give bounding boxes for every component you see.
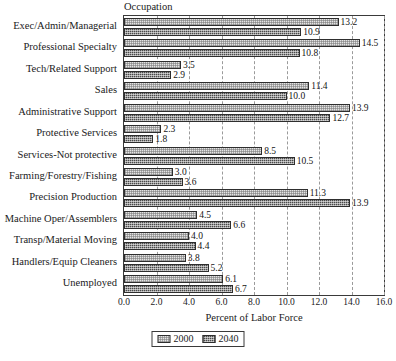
bar-value-label: 1.8 bbox=[155, 135, 167, 145]
category-label: Professional Specialty bbox=[0, 41, 117, 52]
bar-2040 bbox=[124, 71, 171, 79]
bar-group: 6.16.7 bbox=[124, 275, 384, 293]
bar-value-label: 13.2 bbox=[341, 18, 358, 28]
x-tick-label: 16.0 bbox=[376, 297, 393, 307]
bar-2000 bbox=[124, 82, 309, 90]
x-tick-label: 8.0 bbox=[248, 297, 260, 307]
bar-group: 3.52.9 bbox=[124, 61, 384, 79]
bar-2040 bbox=[124, 49, 300, 57]
category-label: Services-Not protective bbox=[0, 149, 117, 160]
bar-value-label: 3.5 bbox=[183, 61, 195, 71]
x-tick-label: 12.0 bbox=[311, 297, 328, 307]
bar-2040 bbox=[124, 92, 287, 100]
bar-2040 bbox=[124, 157, 295, 165]
bar-2040 bbox=[124, 221, 231, 229]
bar-2000 bbox=[124, 18, 339, 26]
bar-value-label: 4.4 bbox=[198, 242, 210, 252]
bar-2040 bbox=[124, 135, 153, 143]
chart-figure: Occupation Exec/Admin/ManagerialProfessi… bbox=[0, 0, 396, 361]
bar-2040 bbox=[124, 242, 196, 250]
bar-value-label: 14.5 bbox=[362, 39, 379, 49]
plot-title: Occupation bbox=[124, 1, 172, 13]
plot-inner: 13.210.914.510.83.52.911.410.013.912.72.… bbox=[124, 16, 384, 295]
bar-value-label: 4.5 bbox=[199, 211, 211, 221]
legend-item-2040: 2040 bbox=[203, 334, 239, 344]
bar-2000 bbox=[124, 211, 197, 219]
category-label: Unemployed bbox=[0, 277, 117, 288]
bar-2000 bbox=[124, 61, 181, 69]
bar-group: 13.912.7 bbox=[124, 104, 384, 122]
bar-group: 3.85.2 bbox=[124, 254, 384, 272]
plot-area: 13.210.914.510.83.52.911.410.013.912.72.… bbox=[123, 15, 385, 296]
category-axis: Exec/Admin/ManagerialProfessional Specia… bbox=[0, 15, 120, 296]
bar-2000 bbox=[124, 275, 223, 283]
bar-value-label: 12.7 bbox=[332, 114, 349, 124]
bar-value-label: 8.5 bbox=[264, 147, 276, 157]
bar-value-label: 11.4 bbox=[311, 82, 327, 92]
bar-value-label: 13.9 bbox=[352, 104, 369, 114]
bar-value-label: 5.2 bbox=[211, 264, 223, 274]
bar-value-label: 3.6 bbox=[185, 178, 197, 188]
category-label: Protective Services bbox=[0, 127, 117, 138]
bar-2040 bbox=[124, 264, 209, 272]
bar-value-label: 6.6 bbox=[233, 221, 245, 231]
category-label: Farming/Forestry/Fishing bbox=[0, 170, 117, 181]
category-label: Sales bbox=[0, 84, 117, 95]
bar-group: 13.210.9 bbox=[124, 18, 384, 36]
bar-2000 bbox=[124, 125, 161, 133]
legend-label: 2000 bbox=[174, 334, 194, 344]
bar-2000 bbox=[124, 104, 350, 112]
bar-2000 bbox=[124, 147, 262, 155]
bar-2000 bbox=[124, 168, 173, 176]
bar-group: 3.03.6 bbox=[124, 168, 384, 186]
bar-value-label: 10.9 bbox=[303, 28, 320, 38]
bar-value-label: 10.5 bbox=[297, 157, 314, 167]
legend-item-2000: 2000 bbox=[158, 334, 194, 344]
x-tick-label: 4.0 bbox=[183, 297, 195, 307]
bar-2040 bbox=[124, 28, 301, 36]
bar-2040 bbox=[124, 199, 350, 207]
bar-2000 bbox=[124, 254, 186, 262]
category-label: Machine Oper/Assemblers bbox=[0, 213, 117, 224]
x-tick-label: 10.0 bbox=[278, 297, 295, 307]
legend-swatch-2040 bbox=[203, 335, 216, 343]
bar-value-label: 3.8 bbox=[188, 254, 200, 264]
x-tick-label: 14.0 bbox=[343, 297, 360, 307]
bar-group: 11.313.9 bbox=[124, 189, 384, 207]
bar-group: 11.410.0 bbox=[124, 82, 384, 100]
bar-group: 8.510.5 bbox=[124, 147, 384, 165]
legend-label: 2040 bbox=[219, 334, 239, 344]
x-tick-label: 0.0 bbox=[118, 297, 130, 307]
legend-swatch-2000 bbox=[158, 335, 171, 343]
bar-2040 bbox=[124, 114, 330, 122]
bar-2000 bbox=[124, 39, 360, 47]
gridline bbox=[384, 16, 385, 295]
category-label: Precision Production bbox=[0, 191, 117, 202]
bar-group: 14.510.8 bbox=[124, 39, 384, 57]
bar-value-label: 2.9 bbox=[173, 71, 185, 81]
x-axis-label: Percent of Labor Force bbox=[123, 312, 385, 324]
category-label: Handlers/Equip Cleaners bbox=[0, 256, 117, 267]
bar-2040 bbox=[124, 285, 233, 293]
bar-2040 bbox=[124, 178, 183, 186]
category-label: Tech/Related Support bbox=[0, 63, 117, 74]
bar-group: 4.04.4 bbox=[124, 232, 384, 250]
bar-value-label: 10.8 bbox=[302, 49, 319, 59]
x-tick-label: 6.0 bbox=[216, 297, 228, 307]
bar-value-label: 11.3 bbox=[310, 189, 326, 199]
bar-value-label: 6.7 bbox=[235, 285, 247, 295]
x-tick-label: 2.0 bbox=[151, 297, 163, 307]
bar-group: 4.56.6 bbox=[124, 211, 384, 229]
category-label: Transp/Material Moving bbox=[0, 234, 117, 245]
chart-legend: 20002040 bbox=[152, 331, 245, 347]
category-label: Administrative Support bbox=[0, 106, 117, 117]
bar-value-label: 10.0 bbox=[289, 92, 306, 102]
bar-2000 bbox=[124, 232, 189, 240]
x-axis-ticks: 0.02.04.06.08.010.012.014.016.0 bbox=[123, 297, 385, 311]
bar-2000 bbox=[124, 189, 308, 197]
bar-value-label: 13.9 bbox=[352, 199, 369, 209]
category-label: Exec/Admin/Managerial bbox=[0, 20, 117, 31]
bar-group: 2.31.8 bbox=[124, 125, 384, 143]
